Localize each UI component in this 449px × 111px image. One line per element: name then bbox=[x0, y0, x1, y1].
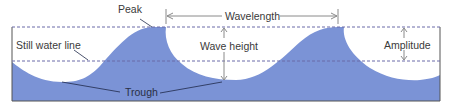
amplitude-label: Amplitude bbox=[384, 40, 431, 51]
still-water-line-label: Still water line bbox=[16, 40, 81, 51]
wave-height-label: Wave height bbox=[200, 41, 258, 52]
still-water-leader-line bbox=[74, 50, 88, 60]
peak-label: Peak bbox=[118, 4, 142, 15]
wavelength-label: Wavelength bbox=[225, 11, 280, 22]
wave-diagram: Peak Wavelength Still water line Wave he… bbox=[0, 0, 449, 111]
trough-label: Trough bbox=[125, 87, 158, 98]
peak-leader-line bbox=[140, 19, 152, 27]
